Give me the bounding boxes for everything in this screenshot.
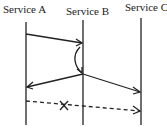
diagram-canvas <box>0 0 167 130</box>
message-b-self <box>75 47 82 73</box>
message-b-to-a <box>27 74 83 89</box>
sequence-diagram: Service A Service B Service C <box>0 0 167 130</box>
message-a-to-b <box>26 34 82 46</box>
message-b-to-c <box>83 74 140 94</box>
failure-x-icon <box>60 101 68 110</box>
